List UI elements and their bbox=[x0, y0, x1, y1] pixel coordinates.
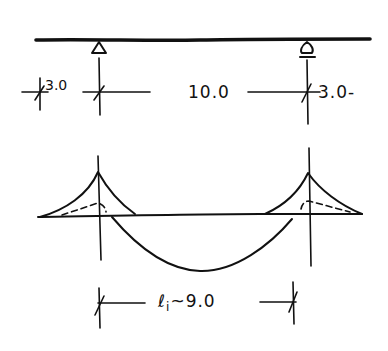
left-reference-line-top bbox=[99, 58, 100, 115]
beam-line bbox=[36, 39, 370, 40]
right-dashed-moment bbox=[301, 201, 350, 212]
left-cantilever-dimension: 3.0 bbox=[45, 78, 67, 92]
moment-axis-line bbox=[38, 214, 362, 217]
approx-symbol: ~ bbox=[170, 291, 185, 311]
right-reference-line-bottom bbox=[309, 148, 311, 266]
right-cantilever-dimension: 3.0- bbox=[318, 84, 355, 101]
effective-length-label: ℓi~9.0 bbox=[158, 293, 216, 313]
right-hogging-moment bbox=[265, 173, 362, 214]
span-dimension: 10.0 bbox=[188, 84, 230, 101]
sagging-moment-curve bbox=[112, 217, 292, 271]
right-support-icon bbox=[300, 42, 315, 57]
left-support-icon bbox=[92, 42, 106, 53]
left-hogging-moment bbox=[40, 172, 135, 217]
length-symbol: ℓ bbox=[158, 291, 166, 311]
effective-length-value: 9.0 bbox=[186, 291, 216, 311]
